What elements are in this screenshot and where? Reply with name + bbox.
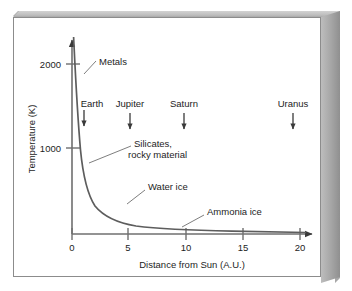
x-tick-label-5: 5 bbox=[125, 242, 130, 253]
x-axis-title: Distance from Sun (A.U.) bbox=[139, 259, 245, 270]
annotation-water-ice: Water ice bbox=[127, 181, 188, 204]
silicates-label-line2: rocky material bbox=[128, 149, 187, 160]
chart-plot-area: 2000 1000 0 5 10 15 20 Distance from Sun… bbox=[0, 0, 352, 291]
ammonia-ice-leader-line bbox=[182, 215, 204, 227]
annotation-ammonia-ice: Ammonia ice bbox=[182, 206, 262, 227]
metals-label: Metals bbox=[99, 56, 127, 67]
metals-leader-line bbox=[84, 61, 96, 74]
planet-label-earth: Earth bbox=[81, 98, 104, 109]
x-tick-label-10: 10 bbox=[181, 242, 192, 253]
water-ice-label: Water ice bbox=[148, 181, 188, 192]
planet-marker-jupiter: Jupiter bbox=[116, 98, 145, 129]
axis-y bbox=[66, 40, 80, 234]
y-axis-title: Temperature (K) bbox=[26, 105, 37, 174]
ammonia-ice-label: Ammonia ice bbox=[207, 206, 262, 217]
x-tick-label-15: 15 bbox=[238, 242, 249, 253]
silicates-leader-line bbox=[89, 146, 131, 163]
y-tick-label-1000: 1000 bbox=[40, 143, 61, 154]
planet-marker-saturn: Saturn bbox=[170, 98, 198, 129]
annotation-silicates: Silicates, rocky material bbox=[89, 138, 187, 163]
annotation-metals: Metals bbox=[84, 56, 127, 74]
planet-label-saturn: Saturn bbox=[170, 98, 198, 109]
figure-root: 2000 1000 0 5 10 15 20 Distance from Sun… bbox=[0, 0, 352, 291]
y-tick-label-2000: 2000 bbox=[40, 59, 61, 70]
planet-label-uranus: Uranus bbox=[278, 98, 309, 109]
x-tick-label-0: 0 bbox=[69, 242, 74, 253]
planet-marker-earth: Earth bbox=[81, 98, 104, 126]
planet-label-jupiter: Jupiter bbox=[116, 98, 145, 109]
x-tick-label-20: 20 bbox=[295, 242, 306, 253]
planet-marker-uranus: Uranus bbox=[278, 98, 309, 129]
silicates-label-line1: Silicates, bbox=[134, 138, 172, 149]
water-ice-leader-line bbox=[127, 190, 145, 204]
